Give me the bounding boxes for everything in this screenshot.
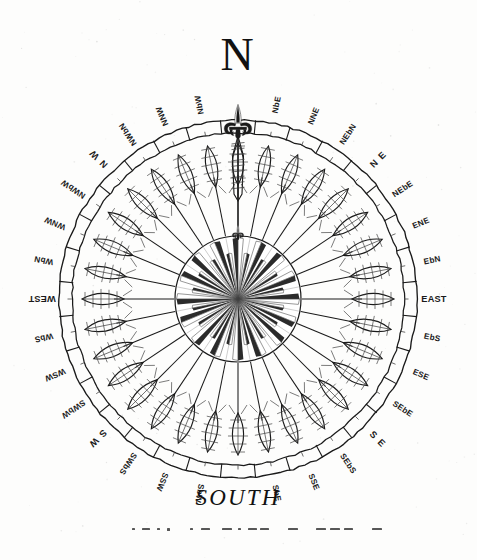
speckle-dot bbox=[156, 258, 157, 259]
spoke bbox=[125, 186, 193, 254]
speckle-dot bbox=[78, 502, 79, 503]
ring-divider-tick bbox=[343, 427, 352, 438]
speckle-dot bbox=[81, 380, 82, 381]
fleur-de-lis-icon-part bbox=[242, 130, 246, 136]
spoke-arrowhead-midrib bbox=[110, 363, 142, 384]
spoke-arrowhead-barb bbox=[340, 325, 350, 329]
spoke-arrowhead-barb bbox=[339, 331, 345, 340]
speckle-dot bbox=[209, 494, 210, 495]
speckle-dot bbox=[68, 422, 69, 423]
ring-point-tick bbox=[173, 141, 175, 145]
spoke-arrowhead-barb bbox=[159, 380, 170, 382]
ring-point-tick bbox=[96, 391, 100, 394]
spoke-arrowhead-barb bbox=[147, 422, 159, 430]
speckle-dot bbox=[436, 478, 438, 480]
spoke-arrowhead-midrib bbox=[334, 213, 366, 234]
speckle-dot bbox=[464, 324, 465, 325]
speckle-dot bbox=[460, 167, 462, 169]
speckle-dot bbox=[429, 222, 430, 223]
ring-label-nwbn: NWbN bbox=[117, 121, 139, 147]
speckle-dot bbox=[398, 51, 400, 53]
footer-mark bbox=[142, 528, 150, 530]
ring-point-tick bbox=[355, 178, 358, 181]
speckle-dot bbox=[394, 221, 395, 222]
speckle-dot bbox=[381, 83, 382, 84]
ring-divider-tick bbox=[220, 464, 221, 478]
spoke-arrowhead-barb bbox=[126, 269, 136, 273]
speckle-dot bbox=[156, 433, 157, 434]
spoke-arrowhead-midrib bbox=[129, 190, 156, 217]
ring-label-sw: S W bbox=[87, 428, 110, 451]
ring-divider-tick bbox=[316, 445, 323, 457]
ring-label-nwbw: NWbW bbox=[60, 178, 88, 201]
ring-label-e: EAST bbox=[421, 294, 446, 304]
footer-mark bbox=[132, 528, 135, 530]
ring-label-ebn: EbN bbox=[423, 254, 441, 266]
footer-mark bbox=[260, 528, 269, 530]
speckle-dot bbox=[281, 85, 282, 86]
speckle-dot bbox=[417, 442, 419, 444]
spoke-arrowhead-barb bbox=[126, 325, 136, 329]
speckle-dot bbox=[394, 449, 395, 450]
speckle-dot bbox=[109, 437, 110, 438]
spoke bbox=[82, 289, 174, 309]
ring-point-tick bbox=[391, 234, 395, 236]
ring-point-tick bbox=[80, 234, 84, 236]
speckle-dot bbox=[452, 304, 453, 305]
speckle-dot bbox=[342, 325, 343, 326]
spoke-arrowhead-barb bbox=[131, 331, 137, 340]
speckle-dot bbox=[119, 19, 120, 20]
speckle-dot bbox=[57, 301, 58, 302]
ring-point-tick bbox=[173, 452, 175, 456]
ring-divider-tick bbox=[396, 347, 409, 351]
ring-divider-tick bbox=[384, 377, 396, 384]
spoke-arrowhead-midrib bbox=[261, 413, 268, 450]
speckle-dot bbox=[50, 390, 52, 392]
ring-divider-tick bbox=[403, 315, 417, 316]
speckle-dot bbox=[126, 232, 127, 233]
speckle-dot bbox=[138, 418, 139, 419]
speckle-dot bbox=[105, 138, 107, 140]
spoke-arrowhead-barb bbox=[317, 422, 329, 430]
spoke bbox=[85, 311, 175, 336]
speckle-dot bbox=[429, 67, 431, 69]
speckle-dot bbox=[344, 51, 345, 52]
spoke-arrowhead-barb bbox=[141, 350, 145, 360]
spoke bbox=[301, 311, 391, 336]
speckle-dot bbox=[277, 262, 278, 263]
spoke-arrowhead-barb bbox=[344, 302, 353, 308]
spoke-arrowhead-barb bbox=[344, 311, 352, 319]
ring-point-tick bbox=[330, 437, 333, 441]
speckle-dot bbox=[412, 411, 413, 412]
speckle-dot bbox=[444, 287, 445, 288]
speckle-dot bbox=[439, 293, 441, 295]
fleur-de-lis-icon-part bbox=[236, 130, 241, 139]
speckle-dot bbox=[456, 462, 457, 463]
spoke-arrowhead-barb bbox=[339, 258, 345, 267]
speckle-dot bbox=[316, 388, 317, 389]
footer-marks bbox=[132, 528, 382, 531]
spoke-arrowhead-midrib bbox=[152, 171, 173, 203]
speckle-dot bbox=[26, 87, 27, 88]
speckle-dot bbox=[463, 534, 464, 535]
spoke-arrowhead-barb bbox=[331, 350, 335, 360]
speckle-dot bbox=[320, 437, 321, 438]
ring-divider-tick bbox=[286, 127, 290, 140]
footer-mark bbox=[344, 528, 353, 530]
spoke-arrowhead-barb bbox=[208, 187, 212, 197]
speckle-dot bbox=[271, 337, 272, 338]
speckle-dot bbox=[82, 525, 84, 527]
spoke-arrowhead-midrib bbox=[110, 213, 142, 234]
ring-point-tick bbox=[71, 331, 75, 332]
speckle-dot bbox=[225, 166, 227, 168]
ring-label-wnw: WNW bbox=[43, 215, 67, 232]
speckle-dot bbox=[96, 389, 97, 390]
speckle-dot bbox=[141, 317, 142, 318]
spoke-arrowhead-barb bbox=[133, 346, 144, 348]
footer-mark bbox=[372, 528, 382, 530]
spoke bbox=[94, 323, 179, 364]
spoke-arrowhead-barb bbox=[361, 208, 369, 220]
speckle-dot bbox=[106, 462, 107, 463]
speckle-dot bbox=[259, 324, 261, 326]
spoke-arrowhead-barb bbox=[264, 401, 268, 411]
